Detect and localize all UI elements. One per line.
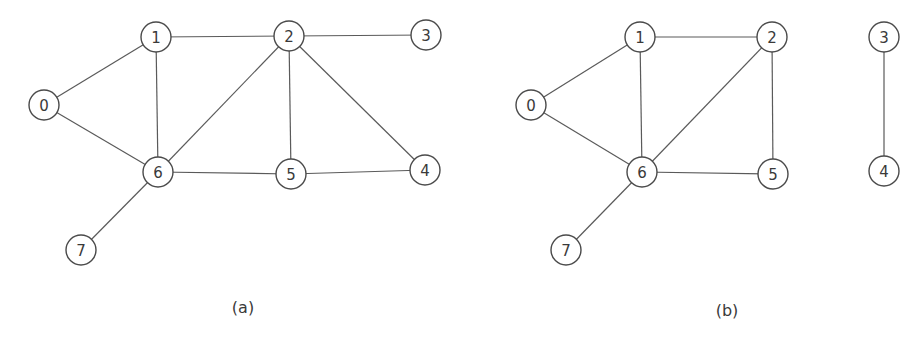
graph-a-edges	[44, 35, 426, 250]
edge-0-6	[44, 105, 158, 172]
node-2: 2	[274, 21, 304, 51]
node-1: 1	[625, 22, 655, 52]
graph-a-caption: (a)	[232, 298, 254, 317]
node-label: 6	[153, 164, 163, 182]
edge-2-6	[158, 36, 289, 172]
graph-b-nodes: 01234567	[516, 22, 899, 265]
node-label: 7	[561, 242, 571, 260]
node-2: 2	[757, 22, 787, 52]
node-0: 0	[29, 90, 59, 120]
graph-diagram: 01234567 (a) 01234567 (b)	[0, 0, 923, 344]
edge-1-6	[640, 37, 642, 172]
node-6: 6	[143, 157, 173, 187]
node-label: 2	[284, 28, 294, 46]
node-label: 7	[76, 242, 86, 260]
graph-a-nodes: 01234567	[29, 20, 441, 265]
node-5: 5	[758, 159, 788, 189]
edge-0-1	[44, 37, 156, 105]
edge-2-4	[289, 36, 425, 170]
edge-5-4	[291, 170, 425, 174]
node-label: 3	[421, 27, 431, 45]
edge-2-5	[772, 37, 773, 174]
node-1: 1	[141, 22, 171, 52]
node-6: 6	[627, 157, 657, 187]
edge-6-7	[81, 172, 158, 250]
graph-b-caption: (b)	[716, 301, 739, 320]
node-label: 5	[768, 166, 778, 184]
node-7: 7	[66, 235, 96, 265]
node-5: 5	[276, 159, 306, 189]
node-label: 2	[767, 29, 777, 47]
edge-6-5	[158, 172, 291, 174]
node-3: 3	[411, 20, 441, 50]
node-3: 3	[869, 22, 899, 52]
graph-b-edges	[531, 37, 884, 250]
node-4: 4	[869, 156, 899, 186]
node-label: 1	[635, 29, 645, 47]
edge-0-1	[531, 37, 640, 105]
edge-0-6	[531, 105, 642, 172]
edge-6-7	[566, 172, 642, 250]
node-label: 3	[879, 29, 889, 47]
node-label: 4	[420, 162, 430, 180]
node-label: 6	[637, 164, 647, 182]
graph-a: 01234567 (a)	[29, 20, 441, 317]
node-label: 0	[39, 97, 49, 115]
node-label: 4	[879, 163, 889, 181]
node-label: 1	[151, 29, 161, 47]
edge-6-5	[642, 172, 773, 174]
node-4: 4	[410, 155, 440, 185]
node-0: 0	[516, 90, 546, 120]
edge-2-6	[642, 37, 772, 172]
node-label: 0	[526, 97, 536, 115]
graph-b: 01234567 (b)	[516, 22, 899, 320]
node-label: 5	[286, 166, 296, 184]
node-7: 7	[551, 235, 581, 265]
edge-1-6	[156, 37, 158, 172]
edge-2-3	[289, 35, 426, 36]
edge-2-5	[289, 36, 291, 174]
edge-1-2	[156, 36, 289, 37]
